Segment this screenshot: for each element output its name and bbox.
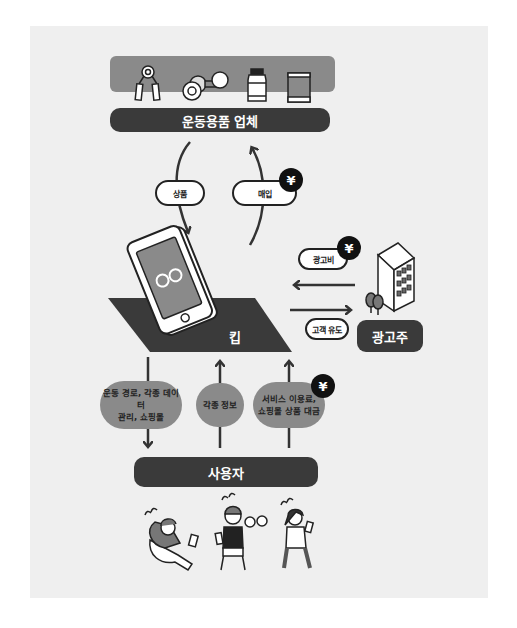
customer-referral-pill: 고객 유도 [305,318,349,340]
yen-icon: ¥ [279,168,303,192]
services-blob: 운동 경로, 각종 데이터 관리, 쇼핑몰 [100,381,182,429]
goods-pill: 상품 [155,180,205,206]
yen-icon: ¥ [311,374,335,398]
building-icon [366,243,414,315]
user-relaxing-icon [145,508,198,570]
info-blob: 각종 정보 [196,383,244,427]
diagram-graphics [0,0,517,628]
yen-icon: ¥ [337,236,361,260]
sports-goods-company-label: 운동용품 업체 [182,111,259,130]
users-bar: 사용자 [134,457,318,487]
sports-goods-company-bar: 운동용품 업체 [110,108,330,132]
kip-label: 킵 [229,327,241,346]
supplement-bottle-icon [248,69,266,101]
advertiser-box: 광고주 [357,320,423,352]
user-exercising-icon [215,493,267,570]
protein-can-icon [288,73,310,102]
user-browsing-icon [281,498,313,568]
